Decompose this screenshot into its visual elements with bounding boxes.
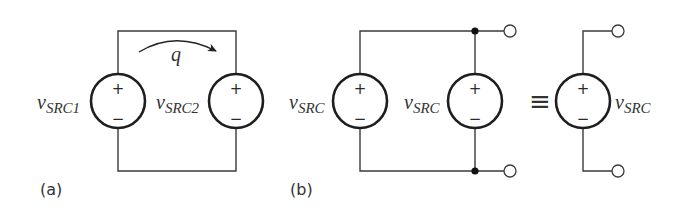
minus-terminal: −	[354, 110, 367, 128]
voltage-source-2: + −	[209, 74, 263, 128]
open-terminal-bottom	[504, 165, 516, 177]
source-equivalent-label: vSRC	[615, 91, 652, 116]
junction-dot-bottom	[471, 167, 478, 174]
junction-dot-top	[471, 27, 478, 34]
voltage-source-left: + −	[333, 74, 387, 128]
open-terminal-top	[504, 25, 516, 37]
voltage-source-middle: + −	[448, 74, 502, 128]
open-terminal-top	[612, 25, 624, 37]
voltage-source-equivalent: + −	[556, 74, 610, 128]
part-a-bottom-wire	[118, 128, 236, 171]
part-b-bottom-wire	[360, 128, 506, 171]
equivalence-symbol: ≡	[529, 86, 551, 116]
circuit-figure: q + − vSRC1 + − vSRC2 (a)	[0, 0, 687, 212]
part-a-circuit: q + − vSRC1 + − vSRC2 (a)	[37, 31, 263, 199]
part-b-label: (b)	[290, 180, 313, 199]
plus-terminal: +	[230, 80, 243, 98]
charge-label: q	[171, 43, 181, 66]
source-2-label: vSRC2	[156, 91, 200, 116]
part-b-top-wire	[360, 31, 506, 74]
plus-terminal: +	[577, 80, 590, 98]
minus-terminal: −	[230, 110, 243, 128]
minus-terminal: −	[577, 110, 590, 128]
source-middle-label: vSRC	[404, 91, 441, 116]
voltage-source-1: + −	[91, 74, 145, 128]
plus-terminal: +	[354, 80, 367, 98]
source-1-label: vSRC1	[37, 91, 80, 116]
part-b-circuit: + − vSRC + − vSRC ≡ + − vSRC (b)	[289, 25, 652, 199]
minus-terminal: −	[469, 110, 482, 128]
equivalent-top-wire	[583, 31, 613, 74]
plus-terminal: +	[112, 80, 125, 98]
equivalent-bottom-wire	[583, 128, 613, 171]
part-a-label: (a)	[40, 180, 62, 199]
plus-terminal: +	[469, 80, 482, 98]
source-left-label: vSRC	[289, 91, 326, 116]
open-terminal-bottom	[612, 165, 624, 177]
minus-terminal: −	[112, 110, 125, 128]
